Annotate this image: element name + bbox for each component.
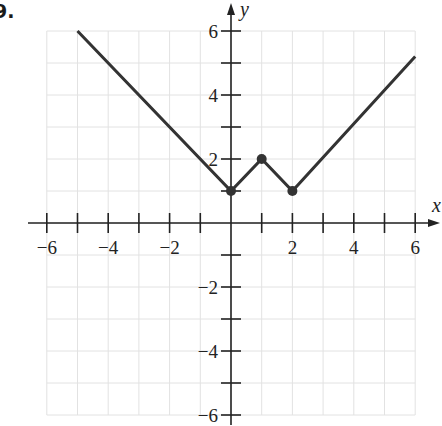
plot-line: [78, 31, 416, 191]
y-tick-label: 6: [209, 21, 219, 42]
point-marker: [226, 186, 236, 196]
point-marker: [257, 154, 267, 164]
y-axis-arrow-icon: [227, 3, 235, 15]
point-marker: [287, 186, 297, 196]
function-graph: −6−4−2246642−2−4−6 x y: [0, 0, 442, 426]
x-tick-label: 2: [288, 237, 298, 258]
y-tick-label: 2: [209, 149, 219, 170]
x-tick-label: −6: [37, 237, 57, 258]
y-tick-label: −6: [198, 405, 218, 426]
y-tick-label: −2: [198, 277, 218, 298]
axes: [28, 3, 440, 425]
x-tick-label: 6: [410, 237, 420, 258]
function-line: [78, 31, 416, 191]
x-axis-label: x: [431, 194, 441, 216]
x-tick-label: −4: [98, 237, 119, 258]
x-tick-label: 4: [349, 237, 359, 258]
y-axis-label: y: [238, 0, 249, 21]
y-tick-label: 4: [209, 85, 219, 106]
x-tick-label: −2: [159, 237, 179, 258]
x-axis-arrow-icon: [428, 219, 440, 227]
y-tick-label: −4: [198, 341, 219, 362]
